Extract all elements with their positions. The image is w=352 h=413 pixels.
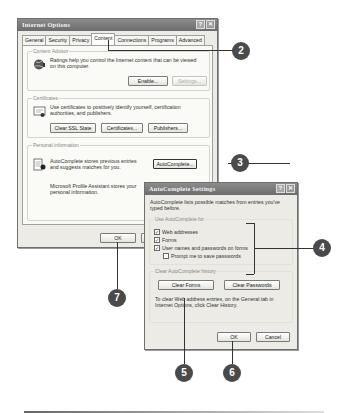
autocomplete-ok-button[interactable]: OK: [217, 332, 251, 342]
callout-7-badge: 7: [108, 289, 126, 307]
prompt-save-passwords-checkbox[interactable]: [163, 253, 169, 259]
callout-4-badge: 4: [313, 239, 331, 257]
callout-6-line: [232, 341, 233, 364]
tab-general[interactable]: General: [22, 35, 46, 45]
close-button[interactable]: ✕: [206, 20, 215, 29]
callout-4-line: [254, 248, 316, 249]
certificates-group: Certificates Use certificates to positiv…: [27, 98, 210, 138]
callout-4-bracket-top: [246, 223, 254, 224]
callout-2-line-h: [108, 50, 234, 51]
callout-6-badge: 6: [223, 364, 241, 382]
autocomplete-form-icon: [33, 158, 46, 171]
prompt-save-passwords-label: Prompt me to save passwords: [171, 253, 241, 259]
clear-history-group: Clear AutoComplete history Clear Forms C…: [149, 271, 293, 323]
personal-information-label: Personal information: [32, 142, 80, 148]
settings-button[interactable]: Settings...: [172, 76, 207, 86]
certificate-icon: [33, 105, 46, 118]
clear-history-label: Clear AutoComplete history: [154, 268, 217, 274]
certificates-label: Certificates: [32, 95, 59, 101]
callout-3-badge: 3: [231, 154, 249, 172]
autocomplete-description: AutoComplete stores previous entries and…: [50, 158, 145, 170]
forms-label: Forms: [162, 237, 177, 243]
autocomplete-cancel-button[interactable]: Cancel: [256, 332, 290, 342]
callout-2-line-v: [108, 40, 109, 50]
dialog-title: AutoComplete Settings: [149, 185, 215, 192]
enable-button[interactable]: Enable...: [128, 76, 168, 86]
clear-forms-button[interactable]: Clear Forms: [158, 280, 214, 290]
tab-connections[interactable]: Connections: [114, 35, 149, 45]
callout-2-badge: 2: [232, 42, 250, 60]
help-button[interactable]: ?: [276, 184, 285, 193]
internet-options-titlebar[interactable]: Internet Options ? ✕: [18, 19, 217, 31]
usernames-passwords-checkbox[interactable]: ✓: [154, 245, 160, 251]
tab-programs[interactable]: Programs: [148, 35, 177, 45]
callout-5-line: [184, 298, 185, 364]
content-advisor-group: Content Advisor Ratings help you control…: [27, 51, 210, 91]
callout-5-badge: 5: [175, 364, 193, 382]
use-autocomplete-label: Use AutoComplete for: [154, 216, 205, 222]
callout-7-line: [117, 242, 118, 289]
help-button[interactable]: ?: [196, 20, 205, 29]
ok-button[interactable]: OK: [100, 233, 136, 243]
autocomplete-settings-titlebar[interactable]: AutoComplete Settings ? ✕: [145, 183, 297, 195]
profile-assistant-description: Microsoft Profile Assistant stores your …: [50, 183, 145, 195]
certificates-description: Use certificates to positively identify …: [50, 104, 200, 116]
clear-ssl-state-button[interactable]: Clear SSL State: [50, 123, 96, 133]
forms-checkbox[interactable]: ✓: [154, 237, 160, 243]
tab-security[interactable]: Security: [45, 35, 70, 45]
callout-4-bracket-bottom: [246, 274, 254, 275]
publishers-button[interactable]: Publishers...: [148, 123, 188, 133]
certificates-button[interactable]: Certificates...: [101, 123, 143, 133]
web-addresses-option[interactable]: ✓ Web addresses: [154, 229, 198, 235]
web-addresses-label: Web addresses: [162, 229, 198, 235]
content-advisor-globe-icon: [33, 58, 46, 71]
autocomplete-button[interactable]: AutoComplete...: [153, 159, 197, 169]
web-addresses-checkbox[interactable]: ✓: [154, 229, 160, 235]
tab-strip: General Security Privacy Content Connect…: [22, 35, 204, 45]
tab-advanced[interactable]: Advanced: [176, 35, 205, 45]
use-autocomplete-group: Use AutoComplete for ✓ Web addresses ✓ F…: [149, 219, 293, 265]
content-advisor-label: Content Advisor: [32, 48, 69, 54]
clear-history-note: To clear Web address entries, on the Gen…: [155, 296, 289, 308]
close-button[interactable]: ✕: [286, 184, 295, 193]
autocomplete-intro: AutoComplete lists possible matches from…: [150, 199, 290, 211]
clear-passwords-button[interactable]: Clear Passwords: [224, 280, 280, 290]
content-advisor-description: Ratings help you control the Internet co…: [50, 57, 200, 69]
prompt-save-passwords-option[interactable]: Prompt me to save passwords: [163, 253, 241, 259]
tab-content[interactable]: Content: [91, 33, 115, 45]
usernames-passwords-option[interactable]: ✓ User names and passwords on forms: [154, 245, 248, 251]
tab-privacy[interactable]: Privacy: [69, 35, 92, 45]
dialog-title: Internet Options: [22, 21, 70, 28]
usernames-passwords-label: User names and passwords on forms: [162, 245, 248, 251]
forms-option[interactable]: ✓ Forms: [154, 237, 177, 243]
autocomplete-settings-dialog: AutoComplete Settings ? ✕ AutoComplete l…: [144, 182, 298, 350]
